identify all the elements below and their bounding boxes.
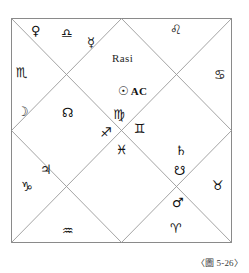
rasi-chart-figure: Rasi ☉ AC ♎♌♏♋☊♍♐♊♓♉♑♒♈ ♀☿☽♄☋♂♃ 〈圖 5-26〉 (0, 0, 249, 273)
ketu-icon: ☋ (174, 164, 186, 177)
capricorn-sign-icon: ♑ (21, 180, 33, 193)
jupiter-icon: ♃ (40, 163, 52, 176)
rasi-chart-lines (0, 0, 249, 273)
taurus-sign-icon: ♉ (212, 179, 224, 192)
gemini-sign-icon: ♊ (134, 122, 146, 135)
saturn-icon: ♄ (175, 144, 187, 157)
mars-icon: ♂ (172, 196, 184, 209)
mercury-icon: ☿ (87, 36, 95, 49)
pisces-sign-icon: ♓ (116, 143, 128, 156)
sagittarius-sign-icon: ♐ (100, 126, 112, 139)
leo-sign-icon: ♌ (170, 23, 182, 36)
aries-sign-icon: ♈ (170, 222, 182, 235)
cancer-sign-icon: ♋ (214, 68, 226, 81)
venus-icon: ♀ (31, 24, 41, 37)
scorpio-sign-icon: ♏ (16, 66, 28, 79)
page-title: Rasi (112, 52, 133, 64)
ascendant-label: AC (131, 85, 148, 97)
ascendant-marker: ☉ AC (118, 84, 147, 98)
aquarius-sign-icon: ♒ (62, 224, 74, 237)
figure-caption: 〈圖 5-26〉 (196, 256, 243, 269)
sun-icon: ☉ (118, 84, 129, 98)
virgo-sign-icon: ♍ (113, 108, 125, 121)
libra-sign-icon: ♎ (61, 27, 73, 40)
rahu-node-sign-icon: ☊ (62, 106, 74, 119)
moon-icon: ☽ (17, 105, 29, 118)
